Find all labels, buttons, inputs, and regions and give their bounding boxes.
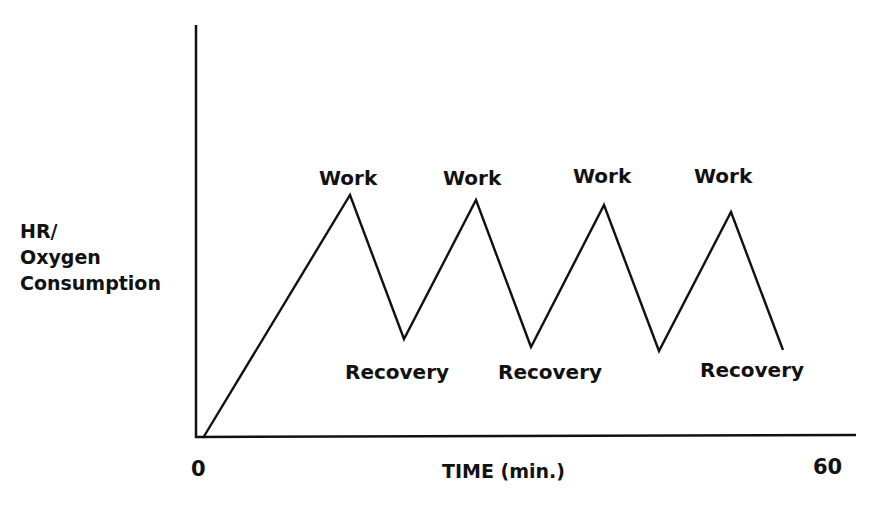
annotation-work-3: Work: [573, 164, 631, 188]
annotation-work-1: Work: [319, 166, 377, 190]
x-tick-0: 0: [191, 457, 206, 481]
annotation-recovery-3: Recovery: [700, 358, 804, 382]
x-axis-label: TIME (min.): [442, 460, 565, 482]
x-axis-line: [195, 435, 856, 437]
y-axis-label: HR/ Oxygen Consumption: [20, 218, 161, 296]
annotation-recovery-1: Recovery: [345, 360, 449, 384]
annotation-work-4: Work: [694, 164, 752, 188]
x-tick-60: 60: [813, 455, 842, 479]
annotation-recovery-2: Recovery: [498, 360, 602, 384]
annotation-work-2: Work: [443, 166, 501, 190]
data-line: [203, 195, 783, 438]
y-axis-label-line-1: HR/: [20, 218, 161, 244]
y-axis-label-line-2: Oxygen: [20, 244, 161, 270]
y-axis-label-line-3: Consumption: [20, 270, 161, 296]
chart-container: HR/ Oxygen Consumption Work Work Work Wo…: [0, 0, 883, 519]
